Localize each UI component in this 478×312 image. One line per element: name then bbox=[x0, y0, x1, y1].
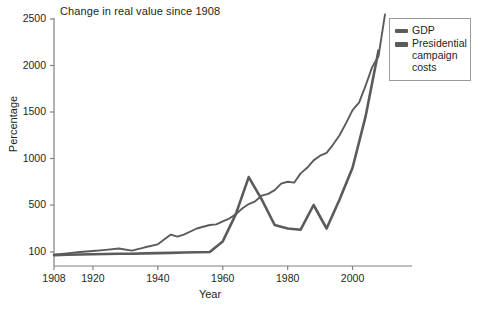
chart-legend: GDP Presidential campaign costs bbox=[389, 18, 471, 81]
legend-item-campaign-costs[interactable]: Presidential campaign costs bbox=[395, 37, 466, 73]
legend-line-swatch-icon bbox=[395, 29, 408, 33]
chart-figure: Change in real value since 1908 Percenta… bbox=[0, 0, 478, 312]
legend-line-swatch-icon bbox=[395, 42, 408, 47]
legend-label: Presidential campaign costs bbox=[412, 37, 467, 73]
data-series-group bbox=[54, 14, 385, 255]
series-line-gdp bbox=[54, 14, 385, 254]
legend-label: GDP bbox=[412, 24, 435, 36]
legend-item-gdp[interactable]: GDP bbox=[395, 24, 466, 36]
